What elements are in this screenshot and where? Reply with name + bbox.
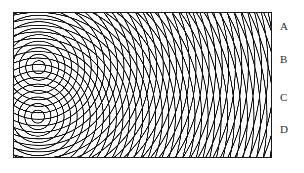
ray-label-a: A <box>280 21 288 32</box>
ray-label-b: B <box>280 54 287 65</box>
ray-label-c: C <box>280 92 287 103</box>
ray-label-d: D <box>280 124 288 135</box>
wave-tank-frame <box>13 12 272 158</box>
wave-interference-pattern <box>14 13 271 157</box>
wave-interference-figure: A B C D <box>0 0 304 173</box>
